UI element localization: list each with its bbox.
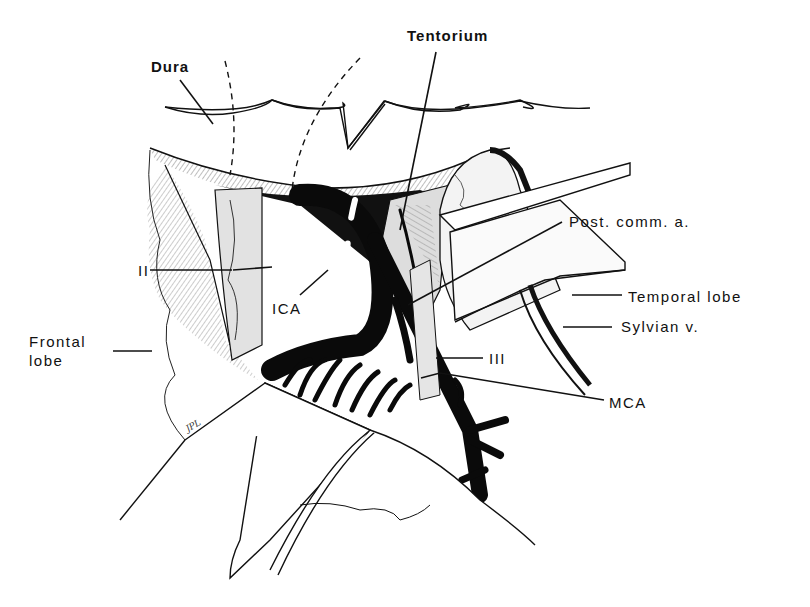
label-mca: MCA [609,394,647,411]
label-tentorium: Tentorium [407,27,488,44]
label-ii: II [138,262,149,279]
label-temporal-lobe: Temporal lobe [628,288,742,305]
dura-flap [165,58,590,190]
label-ica: ICA [272,300,302,317]
label-post-comm-a: Post. comm. a. [569,213,690,230]
label-iii: III [489,350,506,367]
label-sylvian-v: Sylvian v. [621,318,699,335]
label-frontal-lobe: Frontal lobe [29,332,86,370]
label-dura: Dura [151,58,189,75]
